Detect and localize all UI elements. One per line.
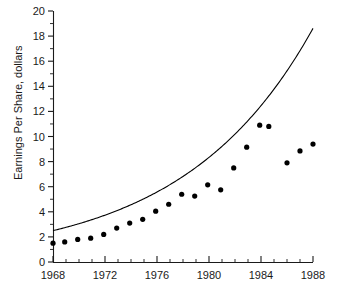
data-point: [179, 192, 184, 197]
y-tick-label: 14: [33, 80, 45, 92]
x-tick-label: 1972: [93, 269, 117, 281]
y-tick-label: 6: [39, 181, 45, 193]
x-tick-label: 1988: [301, 269, 325, 281]
y-tick-label: 20: [33, 5, 45, 17]
y-tick-label: 18: [33, 30, 45, 42]
data-point: [205, 182, 210, 187]
data-point: [192, 194, 197, 199]
data-point: [244, 145, 249, 150]
y-tick-label: 12: [33, 105, 45, 117]
data-point: [266, 124, 271, 129]
data-point: [231, 165, 236, 170]
data-point: [88, 236, 93, 241]
x-tick-label: 1984: [249, 269, 273, 281]
x-tick-label: 1976: [145, 269, 169, 281]
earnings-per-share-chart: Earnings Per Share, dollars 024681012141…: [0, 0, 337, 300]
x-axis-ticks: [53, 256, 313, 262]
data-point: [114, 226, 119, 231]
chart-container: Earnings Per Share, dollars 024681012141…: [0, 0, 337, 300]
y-tick-label: 8: [39, 156, 45, 168]
y-tick-label: 16: [33, 55, 45, 67]
data-point: [153, 209, 158, 214]
x-axis-tick-labels: 196819721976198019841988: [41, 269, 325, 281]
data-point: [310, 141, 315, 146]
data-point: [127, 220, 132, 225]
data-point: [101, 232, 106, 237]
y-tick-label: 10: [33, 131, 45, 143]
y-axis-ticks: [48, 11, 53, 262]
data-point: [297, 148, 302, 153]
data-point: [166, 202, 171, 207]
data-point: [218, 187, 223, 192]
y-axis-tick-labels: 02468101214161820: [33, 5, 45, 268]
y-tick-label: 0: [39, 256, 45, 268]
y-tick-label: 2: [39, 231, 45, 243]
trend-curve: [53, 28, 313, 230]
data-point: [257, 123, 262, 128]
y-tick-label: 4: [39, 206, 45, 218]
data-point: [284, 160, 289, 165]
x-tick-label: 1980: [197, 269, 221, 281]
data-point: [140, 217, 145, 222]
data-points: [50, 123, 315, 246]
y-axis-title: Earnings Per Share, dollars: [12, 45, 24, 180]
data-point: [50, 241, 55, 246]
data-point: [75, 237, 80, 242]
x-tick-label: 1968: [41, 269, 65, 281]
data-point: [62, 239, 67, 244]
